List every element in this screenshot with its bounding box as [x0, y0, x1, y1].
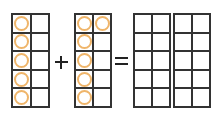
counter-circle-icon	[77, 34, 92, 49]
ten-frame-cell	[192, 88, 210, 107]
ten-frame-addend-2	[74, 13, 112, 108]
ten-frame-cell	[174, 88, 192, 107]
ten-frame-cell	[192, 14, 210, 33]
ten-frame-cell	[174, 51, 192, 70]
ten-frame-cell	[134, 51, 152, 70]
ten-frame-cell	[75, 88, 93, 107]
ten-frame-cell	[75, 33, 93, 52]
ten-frame-cell	[93, 51, 111, 70]
ten-frame-cell	[12, 14, 31, 33]
counter-circle-icon	[14, 90, 29, 105]
equals-icon-top	[115, 57, 128, 59]
ten-frame-cell	[93, 88, 111, 107]
ten-frame-cell	[12, 33, 31, 52]
ten-frame-cell	[93, 14, 111, 33]
ten-frame-cell	[152, 88, 170, 107]
ten-frame-cell	[12, 51, 31, 70]
ten-frame-cell	[174, 70, 192, 89]
ten-frame-cell	[134, 70, 152, 89]
ten-frame-cell	[75, 70, 93, 89]
ten-frame-cell	[174, 33, 192, 52]
counter-circle-icon	[14, 53, 29, 68]
ten-frame-cell	[192, 70, 210, 89]
ten-frame-cell	[152, 14, 170, 33]
counter-circle-icon	[14, 72, 29, 87]
ten-frame-cell	[134, 88, 152, 107]
counter-circle-icon	[77, 53, 92, 68]
ten-frame-cell	[12, 88, 31, 107]
ten-frame-cell	[192, 51, 210, 70]
ten-frame-cell	[174, 14, 192, 33]
counter-circle-icon	[77, 72, 92, 87]
ten-frame-cell	[152, 51, 170, 70]
ten-frame-addend-1	[11, 13, 50, 108]
ten-frame-cell	[93, 33, 111, 52]
counter-circle-icon	[95, 16, 110, 31]
counter-circle-icon	[14, 16, 29, 31]
ten-frame-sum-1	[133, 13, 171, 108]
ten-frame-cell	[75, 51, 93, 70]
counter-circle-icon	[77, 90, 92, 105]
equals-icon-bottom	[115, 63, 128, 65]
ten-frame-cell	[75, 14, 93, 33]
counter-circle-icon	[14, 34, 29, 49]
plus-icon-vertical	[60, 56, 62, 69]
ten-frame-cell	[12, 70, 31, 89]
ten-frame-cell	[31, 14, 50, 33]
ten-frame-cell	[31, 70, 50, 89]
ten-frame-cell	[152, 70, 170, 89]
ten-frame-cell	[93, 70, 111, 89]
ten-frame-cell	[134, 14, 152, 33]
counter-circle-icon	[77, 16, 92, 31]
ten-frame-cell	[192, 33, 210, 52]
ten-frame-cell	[134, 33, 152, 52]
ten-frame-cell	[31, 33, 50, 52]
ten-frame-sum-2	[173, 13, 211, 108]
ten-frame-cell	[31, 51, 50, 70]
ten-frame-cell	[31, 88, 50, 107]
ten-frame-cell	[152, 33, 170, 52]
